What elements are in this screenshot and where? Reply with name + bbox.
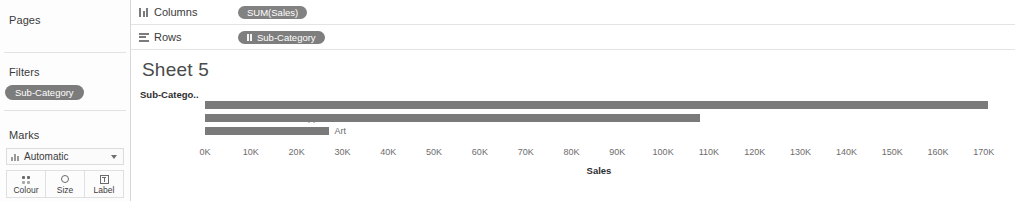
x-tick-40K: 40K xyxy=(380,147,396,157)
pill-label: SUM(Sales) xyxy=(247,6,298,19)
filters-card-title: Filters xyxy=(9,66,40,78)
x-tick-60K: 60K xyxy=(472,147,488,157)
bar-appliances[interactable] xyxy=(205,114,700,122)
bar-art[interactable] xyxy=(205,127,329,135)
rows-shelf: Rows Sub-Category xyxy=(131,25,1015,50)
x-tick-20K: 20K xyxy=(289,147,305,157)
marks-colour-button[interactable]: Colour xyxy=(6,170,45,198)
x-tick-30K: 30K xyxy=(334,147,350,157)
x-tick-50K: 50K xyxy=(426,147,442,157)
x-tick-90K: 90K xyxy=(609,147,625,157)
label-icon xyxy=(98,174,111,185)
card-divider xyxy=(4,110,126,111)
x-tick-100K: 100K xyxy=(653,147,674,157)
x-axis-title: Sales xyxy=(205,165,993,176)
columns-icon xyxy=(139,8,149,17)
marks-label-label: Label xyxy=(94,186,115,195)
columns-shelf: Columns SUM(Sales) xyxy=(131,0,1015,25)
rows-icon xyxy=(139,33,149,42)
filter-pill-label: Sub-Category xyxy=(15,85,74,100)
marks-label-button[interactable]: Label xyxy=(84,170,124,198)
bar-chart: Sub-Catego.. AccessoriesAppliancesArt 0K… xyxy=(131,89,1015,193)
worksheet-canvas[interactable]: Sheet 5 Sub-Catego.. AccessoriesApplianc… xyxy=(131,51,1015,201)
marks-colour-label: Colour xyxy=(13,186,38,195)
bar-accessories[interactable] xyxy=(205,101,988,109)
marks-size-label: Size xyxy=(57,186,74,195)
x-tick-160K: 160K xyxy=(928,147,949,157)
size-icon xyxy=(59,174,72,185)
bar-mark-icon xyxy=(11,153,20,161)
tableau-worksheet-window: Pages Filters Sub-Category Marks Automat… xyxy=(0,0,1015,201)
colour-icon xyxy=(20,174,33,185)
chevron-down-icon xyxy=(111,155,117,159)
sheet-title: Sheet 5 xyxy=(142,59,209,81)
pill-label: Sub-Category xyxy=(257,31,316,44)
marks-card-title: Marks xyxy=(9,129,39,141)
worksheet-main-area: Columns SUM(Sales) Rows Sub-Category She… xyxy=(131,0,1015,201)
x-tick-110K: 110K xyxy=(699,147,719,157)
row-header-title: Sub-Catego.. xyxy=(140,89,199,100)
x-tick-10K: 10K xyxy=(243,147,259,157)
columns-shelf-dropzone[interactable]: SUM(Sales) xyxy=(236,0,1015,25)
marks-size-button[interactable]: Size xyxy=(45,170,84,198)
x-tick-130K: 130K xyxy=(790,147,811,157)
x-axis-ticks: 0K10K20K30K40K50K60K70K80K90K100K110K120… xyxy=(205,147,993,161)
plot-area xyxy=(205,101,993,137)
x-tick-170K: 170K xyxy=(973,147,994,157)
pill-sub-category[interactable]: Sub-Category xyxy=(238,31,325,44)
x-tick-140K: 140K xyxy=(836,147,857,157)
x-tick-70K: 70K xyxy=(518,147,534,157)
x-tick-150K: 150K xyxy=(882,147,903,157)
pages-card-title: Pages xyxy=(9,14,41,26)
pages-shelf-dropzone[interactable] xyxy=(5,30,125,48)
filter-pill-sub-category[interactable]: Sub-Category xyxy=(5,85,84,100)
x-tick-80K: 80K xyxy=(563,147,579,157)
x-tick-0K: 0K xyxy=(199,147,210,157)
x-tick-120K: 120K xyxy=(744,147,765,157)
rows-shelf-dropzone[interactable]: Sub-Category xyxy=(236,25,1015,50)
pill-sum-sales[interactable]: SUM(Sales) xyxy=(238,6,307,19)
marks-property-buttons: Colour Size Label xyxy=(6,170,124,198)
columns-shelf-label: Columns xyxy=(154,6,236,18)
mark-type-dropdown[interactable]: Automatic xyxy=(6,148,124,165)
mark-type-value: Automatic xyxy=(24,151,111,162)
rows-shelf-label: Rows xyxy=(154,31,236,43)
filters-shelf-dropzone[interactable]: Sub-Category xyxy=(5,82,125,106)
dimension-icon xyxy=(247,34,254,41)
card-divider xyxy=(4,52,126,53)
marks-and-filters-sidebar: Pages Filters Sub-Category Marks Automat… xyxy=(0,0,131,201)
